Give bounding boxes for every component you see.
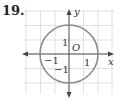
x-axis-label: x bbox=[108, 56, 114, 67]
y-tick-pos: 1 bbox=[62, 37, 68, 48]
coordinate-plane: y x O 1 1 −1 −1 bbox=[0, 0, 121, 102]
x-axis-arrow-left-icon bbox=[22, 52, 28, 57]
y-axis-label: y bbox=[73, 6, 80, 17]
x-tick-pos: 1 bbox=[84, 57, 90, 68]
y-axis-arrow-up-icon bbox=[67, 9, 72, 15]
y-axis-arrow-down-icon bbox=[67, 92, 72, 98]
origin-label: O bbox=[72, 42, 80, 53]
y-tick-neg: −1 bbox=[54, 64, 69, 75]
